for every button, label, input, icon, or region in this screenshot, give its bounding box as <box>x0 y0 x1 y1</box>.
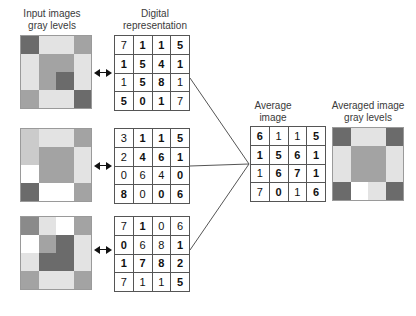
arrow-head-right-icon <box>106 69 112 77</box>
arrow-image-to-matrix-2 <box>94 161 112 170</box>
matrix-cell: 1 <box>171 236 190 255</box>
pixel-cell <box>56 183 74 201</box>
pixel-cell <box>39 90 57 108</box>
matrix-cell: 1 <box>307 165 326 184</box>
matrix-cell: 1 <box>134 36 153 55</box>
matrix-cell: 0 <box>270 183 289 202</box>
matrix-cell: 6 <box>171 217 190 236</box>
matrix-cell: 1 <box>134 217 153 236</box>
matrix-cell: 1 <box>270 127 289 146</box>
pixel-cell <box>39 217 57 235</box>
matrix-cell: 6 <box>134 167 153 186</box>
pixel-cell <box>368 164 386 182</box>
pixel-cell <box>56 271 74 289</box>
matrix-cell: 0 <box>115 167 134 186</box>
pixel-cell <box>74 217 92 235</box>
matrix-cell: 7 <box>115 36 134 55</box>
arrow-image-to-matrix-1 <box>94 68 112 77</box>
matrix-cell: 0 <box>153 217 172 236</box>
matrix-cell: 8 <box>153 236 172 255</box>
matrix-cell: 5 <box>307 127 326 146</box>
pixel-cell <box>21 183 39 201</box>
matrix-cell: 1 <box>153 92 172 111</box>
matrix-cell: 1 <box>251 165 270 184</box>
pixel-cell <box>386 128 404 146</box>
pixel-cell <box>39 36 57 54</box>
input-image-3 <box>20 216 92 290</box>
matrix-cell: 1 <box>115 74 134 93</box>
pixel-cell <box>21 54 39 72</box>
pixel-cell <box>386 182 404 200</box>
digital-matrix-2: 3115246106408006 <box>114 128 190 204</box>
pixel-cell <box>56 54 74 72</box>
matrix-cell: 0 <box>134 92 153 111</box>
pixel-cell <box>21 165 39 183</box>
caption-input-images: Input images gray levels <box>6 8 98 31</box>
pixel-cell <box>351 164 369 182</box>
matrix-cell: 2 <box>171 255 190 274</box>
pixel-cell <box>333 146 351 164</box>
pixel-cell <box>56 147 74 165</box>
matrix-cell: 5 <box>270 146 289 165</box>
digital-matrix-3: 7106068117827115 <box>114 216 190 292</box>
matrix-cell: 5 <box>134 74 153 93</box>
pixel-cell <box>333 128 351 146</box>
matrix-cell: 1 <box>115 55 134 74</box>
matrix-cell: 2 <box>115 148 134 167</box>
matrix-cell: 4 <box>153 167 172 186</box>
input-image-2 <box>20 128 92 202</box>
pixel-cell <box>351 146 369 164</box>
matrix-cell: 7 <box>289 165 308 184</box>
arrow-head-right-icon <box>106 246 112 254</box>
pixel-cell <box>21 90 39 108</box>
pixel-cell <box>21 271 39 289</box>
matrix-cell: 7 <box>115 273 134 292</box>
pixel-cell <box>56 129 74 147</box>
pixel-cell <box>333 182 351 200</box>
matrix-cell: 7 <box>134 255 153 274</box>
pixel-cell <box>39 147 57 165</box>
average-matrix: 6115156116717016 <box>250 126 326 202</box>
pixel-cell <box>56 90 74 108</box>
matrix-cell: 1 <box>134 129 153 148</box>
pixel-cell <box>74 253 92 271</box>
pixel-cell <box>333 164 351 182</box>
pixel-cell <box>56 253 74 271</box>
matrix-cell: 6 <box>307 183 326 202</box>
matrix-cell: 1 <box>251 146 270 165</box>
pixel-cell <box>21 217 39 235</box>
pixel-cell <box>39 271 57 289</box>
matrix-cell: 8 <box>153 255 172 274</box>
pixel-cell <box>74 165 92 183</box>
matrix-cell: 7 <box>171 92 190 111</box>
matrix-cell: 5 <box>171 273 190 292</box>
pixel-cell <box>74 129 92 147</box>
digital-matrix-1: 7115154115815017 <box>114 35 190 111</box>
pixel-cell <box>351 182 369 200</box>
matrix-cell: 1 <box>171 148 190 167</box>
pixel-cell <box>74 147 92 165</box>
pixel-cell <box>368 182 386 200</box>
matrix-cell: 6 <box>171 185 190 204</box>
pixel-cell <box>21 253 39 271</box>
matrix-cell: 1 <box>153 273 172 292</box>
pixel-cell <box>74 271 92 289</box>
matrix-cell: 1 <box>153 36 172 55</box>
matrix-cell: 1 <box>153 129 172 148</box>
pixel-cell <box>39 72 57 90</box>
pixel-cell <box>74 54 92 72</box>
matrix-cell: 5 <box>171 129 190 148</box>
matrix-cell: 1 <box>115 255 134 274</box>
matrix-cell: 6 <box>153 148 172 167</box>
input-image-1 <box>20 35 92 109</box>
matrix-cell: 8 <box>115 185 134 204</box>
matrix-cell: 0 <box>153 185 172 204</box>
pixel-cell <box>39 129 57 147</box>
caption-digital-representation: Digital representation <box>106 8 204 31</box>
matrix-cell: 0 <box>134 185 153 204</box>
caption-averaged-image: Averaged image gray levels <box>322 100 414 123</box>
pixel-cell <box>21 72 39 90</box>
matrix-cell: 7 <box>115 217 134 236</box>
matrix-cell: 1 <box>307 146 326 165</box>
pixel-cell <box>56 165 74 183</box>
